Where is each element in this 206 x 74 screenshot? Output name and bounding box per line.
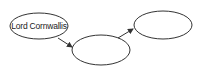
diagram-canvas: Lord Cornwallis [0,0,206,74]
node-2-ellipse[interactable] [72,35,130,65]
node-1-label: Lord Cornwallis [11,21,67,31]
node-blank-3[interactable] [134,11,192,39]
arrow-node2-to-node3 [118,29,133,38]
node-3-ellipse[interactable] [134,11,192,39]
arrow-node1-to-node2 [58,38,72,47]
node-blank-2[interactable] [72,35,130,65]
node-lord-cornwallis: Lord Cornwallis [10,13,68,39]
